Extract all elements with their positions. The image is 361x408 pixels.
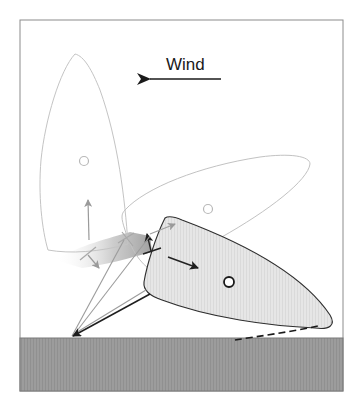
- boat-final-center: [224, 277, 234, 287]
- diagram-frame: [20, 20, 343, 391]
- sailing-diagram: Wind: [0, 0, 361, 408]
- boat-upright-center: [80, 157, 89, 166]
- ground-block: [20, 338, 343, 391]
- wind-label: Wind: [166, 55, 205, 74]
- boat-rotating-center: [204, 205, 213, 214]
